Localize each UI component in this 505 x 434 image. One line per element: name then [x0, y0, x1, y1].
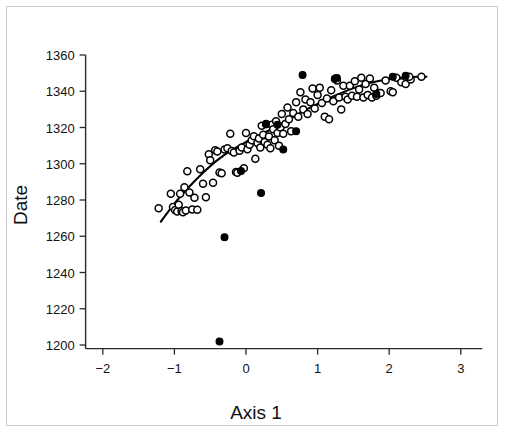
data-point-open	[382, 77, 389, 84]
x-tick-label: −1	[167, 361, 182, 376]
data-point-open	[197, 166, 204, 173]
data-point-open	[304, 110, 311, 117]
y-tick-label: 1320	[46, 121, 75, 136]
x-tick-label: −2	[95, 361, 110, 376]
data-point-open	[267, 145, 274, 152]
data-point-open	[285, 116, 292, 123]
data-point-filled	[238, 168, 245, 175]
y-tick-label: 1340	[46, 84, 75, 99]
data-point-open	[295, 113, 302, 120]
data-point-open	[194, 206, 201, 213]
data-point-open	[227, 130, 234, 137]
data-point-filled	[274, 121, 281, 128]
axes-group	[86, 55, 483, 349]
y-tick-label: 1300	[46, 157, 75, 172]
data-point-open	[311, 105, 318, 112]
data-point-open	[358, 74, 365, 81]
y-tick-label: 1220	[46, 302, 75, 317]
data-point-filled	[299, 72, 306, 79]
data-point-filled	[280, 146, 287, 153]
data-point-filled	[293, 128, 300, 135]
data-point-open	[280, 130, 287, 137]
data-point-open	[177, 190, 184, 197]
data-point-open	[338, 106, 345, 113]
data-point-open	[356, 86, 363, 93]
data-points-group	[155, 72, 425, 345]
data-point-open	[207, 157, 214, 164]
figure-container: −2−1012312001220124012601280130013201340…	[0, 0, 505, 434]
data-point-open	[200, 180, 207, 187]
data-point-open	[366, 75, 373, 82]
data-point-open	[214, 148, 221, 155]
data-point-open	[284, 104, 291, 111]
data-point-open	[184, 168, 191, 175]
data-point-open	[314, 91, 321, 98]
data-point-open	[418, 73, 425, 80]
data-point-filled	[221, 234, 228, 241]
y-tick-label: 1280	[46, 193, 75, 208]
x-tick-label: 3	[457, 361, 464, 376]
data-point-open	[210, 179, 217, 186]
data-point-filled	[402, 72, 409, 79]
data-point-filled	[263, 121, 270, 128]
data-point-open	[307, 99, 314, 106]
data-point-open	[326, 116, 333, 123]
fitted-curve	[161, 77, 427, 222]
data-point-open	[309, 85, 316, 92]
data-point-filled	[373, 91, 380, 98]
x-axis-title: Axis 1	[230, 402, 282, 423]
data-point-open	[328, 87, 335, 94]
data-point-filled	[389, 73, 396, 80]
y-tick-label: 1360	[46, 48, 75, 63]
data-point-open	[191, 194, 198, 201]
data-point-filled	[258, 190, 265, 197]
x-tick-label: 0	[242, 361, 249, 376]
data-point-open	[202, 194, 209, 201]
y-tick-label: 1200	[46, 338, 75, 353]
data-point-filled	[334, 75, 341, 82]
data-point-open	[297, 89, 304, 96]
tick-labels-group: −2−1012312001220124012601280130013201340…	[46, 48, 465, 376]
data-point-open	[243, 129, 250, 136]
scatter-plot: −2−1012312001220124012601280130013201340…	[0, 0, 505, 434]
data-point-open	[293, 99, 300, 106]
ticks-group	[80, 55, 461, 355]
data-point-open	[389, 89, 396, 96]
data-point-open	[218, 170, 225, 177]
x-tick-label: 2	[386, 361, 393, 376]
data-point-open	[278, 110, 285, 117]
fitted-curve-group	[161, 77, 427, 222]
data-point-open	[167, 190, 174, 197]
data-point-open	[252, 155, 259, 162]
x-tick-label: 1	[314, 361, 321, 376]
data-point-filled	[216, 338, 223, 345]
y-tick-label: 1240	[46, 266, 75, 281]
data-point-open	[155, 205, 162, 212]
y-tick-label: 1260	[46, 229, 75, 244]
y-axis-title: Date	[10, 185, 31, 225]
data-point-open	[316, 84, 323, 91]
